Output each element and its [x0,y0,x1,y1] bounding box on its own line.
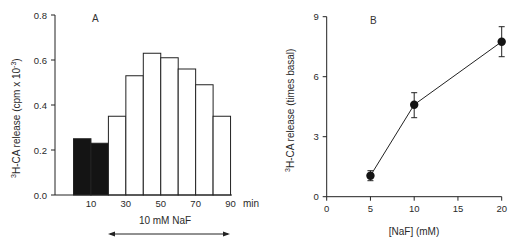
x-tick-label: 30 [121,198,132,209]
y-tick-label: 3 [313,131,318,142]
y-tick-label: 0.4 [34,100,47,111]
data-point [410,101,418,109]
x-tick-label: 50 [155,198,166,209]
panel-b-line-chart: 0369 05101520 B [NaF] (mM) 3H-CA release… [284,11,507,237]
y-tick-label: 9 [313,11,318,22]
histogram-bar [196,85,213,195]
y-tick-label: 6 [313,71,318,82]
histogram-bar [161,58,178,195]
x-tick-label: 0 [324,203,329,214]
data-point [498,38,506,46]
figure: 0.00.20.40.60.8 1030507090 A min 3H-CA r… [0,0,513,242]
histogram-bar [213,116,230,195]
x-axis-label-min: min [243,198,259,209]
y-axis-label: 3H-CA release (times basal) [284,49,296,172]
panel-label-b: B [370,15,377,26]
x-tick-label: 10 [409,203,420,214]
y-ticks: 0369 [313,11,326,202]
y-tick-label: 0.8 [34,10,47,21]
histogram-bar [126,76,143,195]
panel-a-bar-chart: 0.00.20.40.60.8 1030507090 A min 3H-CA r… [10,10,259,237]
y-tick-label: 0.0 [34,190,47,201]
histogram-bar [143,53,160,195]
histogram-bar [178,69,195,195]
data-series [366,27,506,181]
series-line [370,42,501,176]
naf-annotation-label: 10 mM NaF [139,215,191,226]
data-point [366,172,374,180]
y-tick-label: 0 [313,191,318,202]
x-tick-label: 5 [368,203,373,214]
x-tick-label: 15 [453,203,464,214]
y-ticks: 0.00.20.40.60.8 [34,10,55,201]
y-tick-label: 0.2 [34,145,47,156]
y-tick-label: 0.6 [34,55,47,66]
histogram-bar [91,143,108,195]
x-tick-label: 70 [190,198,201,209]
x-ticks: 1030507090 [86,198,236,209]
histogram-bar [74,139,91,195]
panel-label-a: A [92,13,99,24]
double-arrow-icon [108,232,230,237]
y-axis-label: 3H-CA release (cpm x 10-3) [10,58,22,178]
x-ticks: 05101520 [324,197,507,214]
x-axis-label: [NaF] (mM) [389,226,440,237]
x-tick-label: 90 [225,198,236,209]
histogram-bars [74,53,231,195]
x-tick-label: 10 [86,198,97,209]
x-tick-label: 20 [496,203,507,214]
histogram-bar [108,116,125,195]
